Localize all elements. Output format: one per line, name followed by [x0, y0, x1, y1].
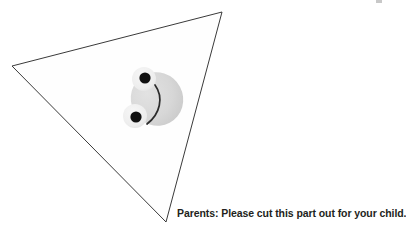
parent-instruction-text: Parents: Please cut this part out for yo…	[177, 206, 406, 220]
page-edge-mark	[376, 0, 382, 3]
cut-line-triangle[interactable]	[12, 12, 222, 222]
frog-lower-eye-pupil	[130, 111, 141, 122]
frog-upper-eye-pupil	[139, 72, 150, 83]
